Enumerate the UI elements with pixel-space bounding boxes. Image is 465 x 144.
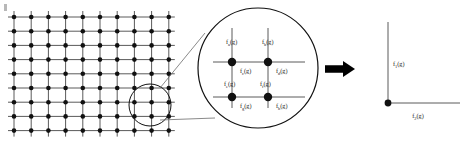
- magnifier-node: [264, 93, 272, 101]
- lattice-node: [98, 15, 103, 20]
- lattice-node: [132, 100, 137, 105]
- lattice-node: [98, 43, 103, 48]
- lattice-node: [98, 72, 103, 77]
- lattice-node: [63, 57, 68, 62]
- lattice-node: [63, 100, 68, 105]
- lattice-node: [149, 72, 154, 77]
- lattice-node: [12, 72, 17, 77]
- lattice-node: [115, 114, 120, 119]
- reduced-node: [385, 100, 392, 107]
- lattice-node: [81, 128, 86, 133]
- lattice-node: [149, 29, 154, 34]
- lattice-node: [46, 57, 51, 62]
- lattice-node: [115, 43, 120, 48]
- lattice-node: [63, 15, 68, 20]
- lattice-node: [29, 114, 34, 119]
- lattice-node: [46, 86, 51, 91]
- lattice-node: [132, 72, 137, 77]
- lattice-node: [98, 114, 103, 119]
- lattice-node: [63, 29, 68, 34]
- corner-artifact: [4, 4, 7, 11]
- transform-arrow: [325, 61, 355, 77]
- lattice-node: [149, 15, 154, 20]
- lattice-node: [81, 72, 86, 77]
- lattice-node: [12, 29, 17, 34]
- lattice-node: [63, 72, 68, 77]
- lattice-node: [12, 86, 17, 91]
- lattice-node: [149, 128, 154, 133]
- lattice-node: [29, 29, 34, 34]
- lattice-node: [167, 29, 172, 34]
- lattice-node: [29, 15, 34, 20]
- lattice-node: [167, 128, 172, 133]
- lattice-node: [167, 86, 172, 91]
- lattice-node: [29, 43, 34, 48]
- lattice-node: [29, 86, 34, 91]
- lattice-node: [63, 114, 68, 119]
- lattice-node: [115, 86, 120, 91]
- lattice-node: [149, 86, 154, 91]
- lattice-node: [81, 100, 86, 105]
- lattice-node: [149, 114, 154, 119]
- lattice-node: [63, 128, 68, 133]
- lattice-node: [46, 128, 51, 133]
- lattice-node: [115, 57, 120, 62]
- lattice-node: [46, 43, 51, 48]
- lattice-node: [149, 57, 154, 62]
- lattice-node: [46, 15, 51, 20]
- lattice-node: [81, 86, 86, 91]
- magnifier-node: [264, 58, 272, 66]
- lattice-node: [12, 15, 17, 20]
- lattice-node: [46, 114, 51, 119]
- reduced-label-vertical: f1(g): [393, 60, 404, 69]
- lattice-node: [132, 29, 137, 34]
- lattice-node: [81, 114, 86, 119]
- lattice-node: [167, 43, 172, 48]
- lattice-node: [29, 72, 34, 77]
- lattice-node: [98, 86, 103, 91]
- magnifier-node: [228, 93, 236, 101]
- lattice-node: [115, 100, 120, 105]
- lattice-node: [132, 57, 137, 62]
- figure-canvas: fa(g)fb(g)fc(g)fd(g)fe(g)ff(g)fg(g)fh(g)…: [0, 0, 465, 144]
- lattice-node: [81, 43, 86, 48]
- lattice-node: [12, 114, 17, 119]
- lattice-node: [29, 57, 34, 62]
- lattice-node: [98, 100, 103, 105]
- lattice-node: [167, 57, 172, 62]
- lattice-node: [167, 15, 172, 20]
- lattice-node: [12, 43, 17, 48]
- lattice-node: [98, 57, 103, 62]
- magnifier-node: [228, 58, 236, 66]
- lattice-node: [81, 57, 86, 62]
- lattice-node: [81, 29, 86, 34]
- lattice-node: [29, 128, 34, 133]
- lattice-node: [29, 100, 34, 105]
- lattice-node: [115, 128, 120, 133]
- lattice-node: [12, 57, 17, 62]
- lattice-node: [63, 86, 68, 91]
- lattice-node: [115, 15, 120, 20]
- lattice-node: [46, 29, 51, 34]
- lattice-node: [63, 43, 68, 48]
- lattice-node: [81, 15, 86, 20]
- lattice-node: [115, 72, 120, 77]
- lattice-node: [115, 29, 120, 34]
- lattice-node: [46, 72, 51, 77]
- reduced-label-horizontal: f2(g): [412, 112, 423, 121]
- lattice-node: [12, 100, 17, 105]
- lattice-node: [132, 128, 137, 133]
- lattice-node: [98, 128, 103, 133]
- lattice-node: [98, 29, 103, 34]
- lattice-node: [12, 128, 17, 133]
- lattice-node: [46, 100, 51, 105]
- lattice-node: [149, 100, 154, 105]
- figure-root: fa(g)fb(g)fc(g)fd(g)fe(g)ff(g)fg(g)fh(g)…: [0, 0, 465, 144]
- lattice-node: [132, 43, 137, 48]
- lattice-node: [132, 15, 137, 20]
- magnifier-circle: [198, 8, 318, 128]
- lattice-node: [149, 43, 154, 48]
